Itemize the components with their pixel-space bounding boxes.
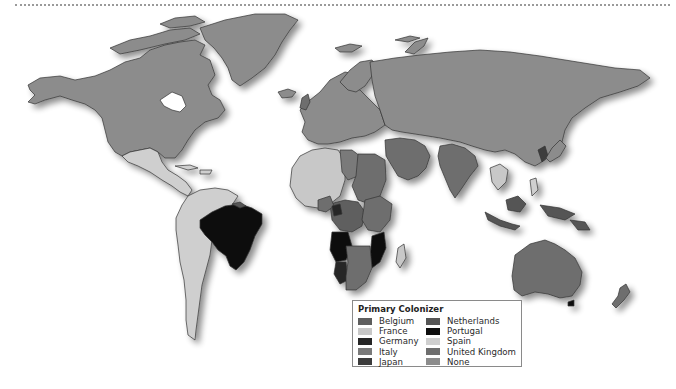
region-new-zealand: [612, 284, 630, 308]
legend-item-belgium: Belgium: [358, 316, 426, 326]
legend-item-portugal: Portugal: [426, 326, 516, 336]
region-indonesia: [485, 212, 520, 230]
legend-item-japan: Japan: [358, 357, 426, 367]
legend-swatch: [358, 318, 372, 325]
legend-swatch: [426, 358, 440, 365]
region-central-america: [122, 148, 192, 196]
legend-swatch: [426, 318, 440, 325]
legend-item-italy: Italy: [358, 347, 426, 357]
legend-swatch: [426, 328, 440, 335]
region-brazil: [200, 204, 262, 270]
legend-item-spain: Spain: [426, 336, 516, 346]
legend-item-united-kingdom: United Kingdom: [426, 347, 516, 357]
legend-swatch: [358, 358, 372, 365]
world-map: [0, 0, 676, 389]
region-middle-east: [385, 138, 430, 180]
region-india: [438, 144, 478, 198]
legend-item-netherlands: Netherlands: [426, 316, 516, 326]
region-madagascar: [396, 244, 406, 268]
region-west-africa: [290, 148, 345, 208]
region-australia: [512, 240, 582, 298]
legend-swatch: [426, 348, 440, 355]
legend-item-germany: Germany: [358, 336, 426, 346]
map-legend: Primary Colonizer Belgium France Germany…: [352, 300, 522, 367]
legend-swatch: [426, 338, 440, 345]
legend-swatch: [358, 338, 372, 345]
legend-title: Primary Colonizer: [358, 304, 516, 315]
region-north-america: [28, 40, 225, 158]
legend-swatch: [358, 328, 372, 335]
legend-item-france: France: [358, 326, 426, 336]
region-mozambique: [370, 232, 386, 268]
region-southern-africa: [346, 246, 372, 290]
legend-item-none: None: [426, 357, 516, 367]
legend-swatch: [358, 348, 372, 355]
